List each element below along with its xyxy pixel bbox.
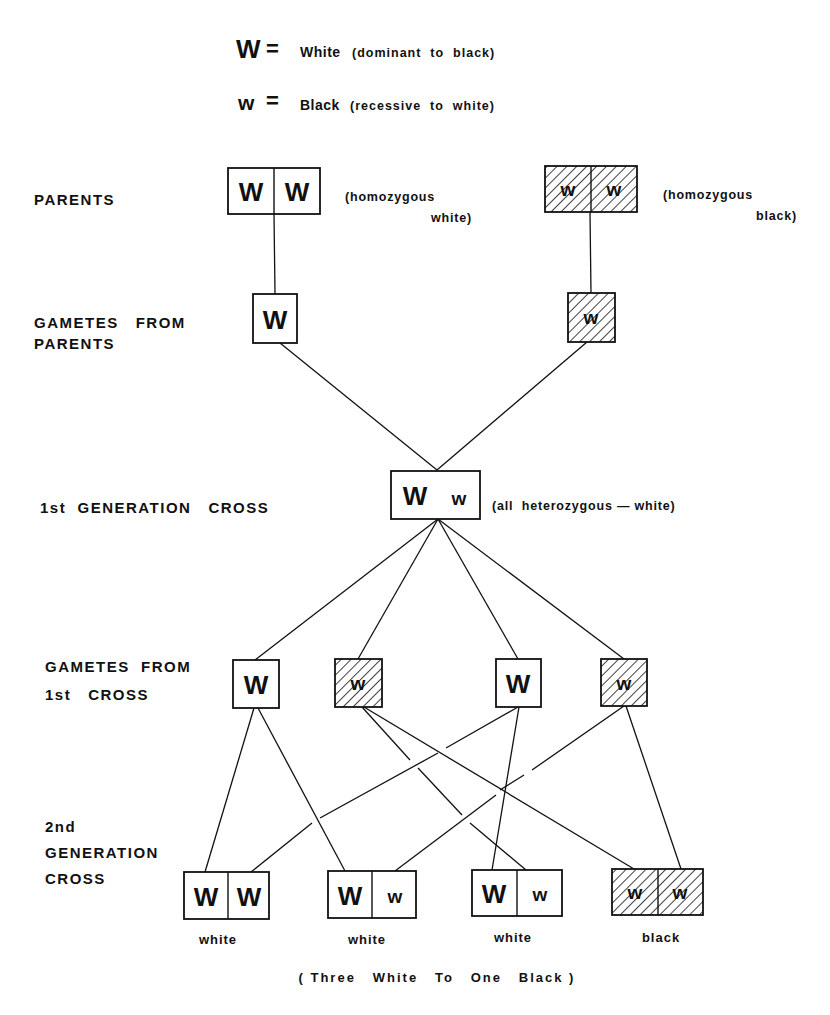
parent-black: w w (homozygous black) [545, 166, 797, 223]
gamete-f1-4: w [601, 659, 647, 706]
legend-recessive-symbol: w [237, 91, 255, 114]
legend-dominant: W = White (dominant to black) [236, 34, 495, 64]
allele: w [627, 882, 643, 903]
line-g4-to-o2-a [532, 706, 624, 770]
line-parent-black-to-gamete [590, 212, 591, 293]
legend-recessive-detail: (recessive to white) [350, 99, 495, 113]
line-g3-to-o1-a [446, 707, 518, 748]
f2-offspring-2: W w white [328, 871, 416, 947]
parent-white: W W (homozygous white) [228, 168, 472, 225]
phenotype-label: white [347, 932, 386, 947]
line-gamete-w-to-f1 [437, 342, 587, 470]
ratio-summary: ( Three White To One Black ) [299, 970, 576, 985]
line-f1-to-gamete-4 [438, 519, 624, 659]
allele: W [482, 879, 507, 909]
allele: w [583, 307, 599, 328]
allele: w [606, 179, 622, 200]
allele: W [237, 882, 262, 912]
allele: W [239, 177, 264, 207]
row-label-gametes-f1-1: GAMETES FROM [45, 658, 191, 675]
line-g2-to-o3-b [418, 768, 462, 815]
allele: w [451, 488, 467, 509]
f2-offspring-1: W W white [184, 872, 269, 947]
row-label-f2-2: GENERATION [45, 844, 159, 861]
legend-recessive-label: Black [300, 97, 340, 113]
allele: W [194, 882, 219, 912]
allele: w [387, 886, 403, 907]
parent-white-note-1: (homozygous [345, 190, 435, 204]
row-label-parents: PARENTS [34, 191, 115, 208]
line-g2-to-o3-a [362, 707, 410, 760]
row-label-gametes-f1-2: 1st CROSS [45, 686, 149, 703]
gamete-f1-1: W [233, 660, 279, 708]
allele: w [560, 179, 576, 200]
line-g3-to-o3 [492, 707, 519, 870]
allele: W [506, 669, 531, 699]
allele: W [338, 881, 363, 911]
phenotype-label: black [642, 930, 680, 945]
legend-dominant-label: White [300, 44, 341, 60]
line-g3-to-o1-c [251, 823, 312, 872]
line-g3-to-o1-b [320, 753, 438, 818]
row-label-f2-3: CROSS [45, 870, 106, 887]
legend-dominant-detail: (dominant to black) [352, 46, 495, 60]
line-g1-to-o1 [205, 708, 254, 872]
allele: W [263, 305, 288, 335]
allele: w [616, 673, 632, 694]
phenotype-label: white [198, 932, 237, 947]
row-label-f2-1: 2nd [45, 818, 76, 835]
allele: w [672, 882, 688, 903]
allele: W [403, 481, 428, 511]
allele: W [244, 670, 269, 700]
line-f1-to-gamete-2 [358, 519, 438, 659]
line-g1-to-o2 [258, 708, 345, 871]
line-f1-to-gamete-1 [255, 519, 438, 660]
legend: W = White (dominant to black) w = Black … [236, 34, 495, 114]
line-parent-white-to-gamete [274, 214, 275, 294]
legend-recessive: w = Black (recessive to white) [237, 88, 495, 114]
row-label-gametes-parents-1: GAMETES FROM [34, 314, 186, 331]
allele: w [532, 884, 548, 905]
gamete-f1-2: w [335, 659, 382, 707]
gamete-f1-3: W [496, 659, 541, 707]
f1-offspring: W w (all heterozygous — white) [391, 471, 675, 519]
legend-dominant-symbol: W [236, 34, 261, 64]
line-g2-to-o4 [364, 707, 634, 869]
line-g4-to-o4 [626, 706, 681, 869]
line-g4-to-o2-b [500, 775, 524, 790]
row-labels: PARENTS GAMETES FROM PARENTS 1st GENERAT… [34, 191, 269, 887]
phenotype-label: white [493, 930, 532, 945]
row-label-gametes-parents-2: PARENTS [34, 335, 115, 352]
parent-black-note-2: black) [756, 209, 797, 223]
allele: w [350, 673, 366, 694]
f1-note: (all heterozygous — white) [492, 499, 675, 513]
line-gamete-W-to-f1 [280, 343, 437, 470]
parent-white-note-2: white) [430, 211, 472, 225]
row-label-f1: 1st GENERATION CROSS [40, 499, 269, 516]
line-g4-to-o2-c [395, 795, 496, 871]
gamete-parent-black: w [568, 293, 615, 342]
gamete-parent-white: W [253, 294, 297, 343]
allele: W [285, 177, 310, 207]
f2-offspring-4: w w black [612, 869, 703, 945]
parent-black-note-1: (homozygous [663, 188, 753, 202]
legend-recessive-equals: = [266, 88, 279, 113]
monohybrid-cross-diagram: W = White (dominant to black) w = Black … [0, 0, 830, 1015]
legend-dominant-equals: = [266, 36, 279, 61]
f2-offspring-3: W w white [472, 870, 562, 945]
line-f1-to-gamete-3 [438, 519, 518, 659]
